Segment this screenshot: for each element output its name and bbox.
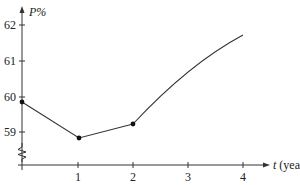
data-point-marker	[20, 100, 25, 105]
x-axis-var: t	[273, 158, 277, 172]
x-tick-label: 4	[240, 170, 246, 184]
data-point-marker	[131, 122, 136, 127]
x-tick-label: 3	[185, 170, 191, 184]
y-axis-arrow-icon	[20, 6, 25, 13]
y-tick-label: 61	[4, 54, 16, 68]
x-tick-label: 2	[130, 170, 136, 184]
x-tick-label: 1	[75, 170, 81, 184]
x-axis-arrow-icon	[263, 163, 270, 168]
x-axis-unit: (year)	[279, 158, 300, 172]
data-line-segments	[22, 102, 133, 138]
y-axis-title: P%	[28, 5, 46, 19]
data-point-marker	[77, 136, 82, 141]
chart: 62 61 60 59 1 2 3 4 P% t(year)	[0, 0, 300, 185]
data-curve	[133, 35, 243, 124]
y-tick-label: 60	[4, 90, 16, 104]
y-tick-label: 62	[4, 18, 16, 32]
x-axis-title: t(year)	[273, 158, 300, 172]
y-tick-label: 59	[4, 125, 16, 139]
